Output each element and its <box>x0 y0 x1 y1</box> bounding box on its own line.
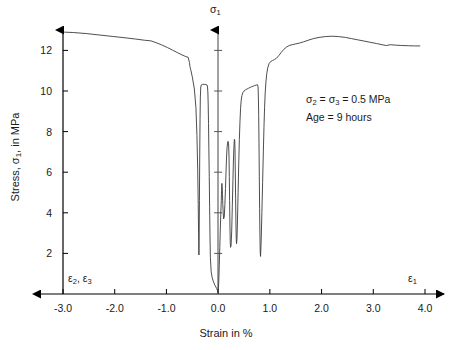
sigma1-axis-symbol: σ1 <box>210 3 221 17</box>
x-tick-label: 1.0 <box>263 302 278 314</box>
x-tick-label: -3.0 <box>54 302 72 314</box>
x-axis-group <box>40 289 444 294</box>
x-tick-label: 3.0 <box>366 302 381 314</box>
annotation-pressure-value: = 0.5 MPa <box>339 93 390 105</box>
y-axis-title-prefix: Stress, <box>9 164 21 201</box>
x-tick-label: -2.0 <box>106 302 124 314</box>
axial-strain-symbol: ε1 <box>408 272 417 286</box>
x-tick-label: -1.0 <box>157 302 175 314</box>
y-tick-label: 2 <box>14 247 52 259</box>
y-axis-group <box>63 30 68 294</box>
x-tick-label: 4.0 <box>418 302 433 314</box>
x-tick-label: 0.0 <box>211 302 226 314</box>
y-axis-title: Stress, σ1, in MPa <box>9 67 23 247</box>
epsilon3-subscript: 3 <box>87 277 91 286</box>
x-tick-label: 2.0 <box>314 302 329 314</box>
test-conditions-annotation: σ2 = σ3 = 0.5 MPa Age = 9 hours <box>306 92 390 125</box>
curve-lateral-strain <box>65 32 219 293</box>
y-axis-title-symbol: σ <box>9 157 21 164</box>
annotation-confining-pressure: σ2 = σ3 = 0.5 MPa <box>306 92 390 110</box>
annotation-equals-1: = <box>317 93 329 105</box>
plot-canvas <box>0 0 452 350</box>
y-tick-label: 12 <box>14 44 52 56</box>
stress-strain-chart-figure: -3.0-2.0-1.00.01.02.03.04.0 24681012 Str… <box>0 0 452 350</box>
lateral-strain-symbol: ε2, ε3 <box>68 272 92 286</box>
sigma1-axis-group <box>214 30 222 294</box>
y-axis-title-suffix: , in MPa <box>9 113 21 153</box>
y-axis-title-subscript: 1 <box>14 153 23 157</box>
x-axis-title: Strain in % <box>0 327 452 339</box>
annotation-age: Age = 9 hours <box>306 110 390 125</box>
epsilon1-subscript: 1 <box>413 277 417 286</box>
y-axis-ticks <box>63 50 68 253</box>
sigma1-subscript: 1 <box>216 8 220 17</box>
x-axis-ticks <box>63 289 425 294</box>
curve-axial-strain <box>218 36 420 293</box>
